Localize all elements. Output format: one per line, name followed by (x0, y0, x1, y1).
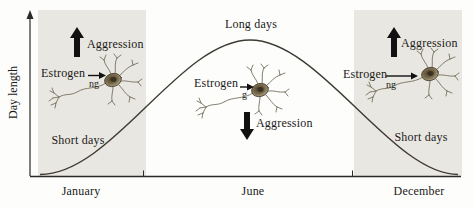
aggression-label-middle: Aggression (256, 117, 313, 130)
estrogen-label-left: Estrogen (41, 67, 85, 80)
short-days-label-right: Short days (381, 131, 461, 144)
estrogen-label-middle: Estrogen (194, 77, 238, 90)
day-length-curve (40, 40, 458, 175)
mechanism-label-left: ng (89, 78, 99, 89)
aggression-label-right: Aggression (401, 37, 458, 50)
y-axis-label: Day length (6, 62, 21, 124)
aggression-up-arrow-icon-left (70, 27, 84, 57)
aggression-down-arrow-icon-middle (240, 112, 254, 140)
figure-graphics (0, 0, 474, 208)
long-days-label: Long days (211, 18, 291, 31)
seasonal-aggression-figure: Day length Long days Aggression Aggressi… (0, 0, 474, 208)
aggression-label-left: Aggression (87, 38, 144, 51)
y-axis-arrowhead-icon (27, 10, 34, 19)
aggression-up-arrow-icon-right (387, 27, 401, 57)
x-tick-label-december: December (379, 185, 459, 198)
x-tick-label-june: June (213, 185, 293, 198)
mechanism-label-right: ng (386, 79, 396, 90)
y-axis (27, 10, 34, 176)
x-axis (30, 171, 461, 177)
mechanism-label-middle: g (242, 89, 247, 100)
estrogen-label-right: Estrogen (343, 68, 387, 81)
short-days-label-left: Short days (38, 134, 118, 147)
x-tick-label-january: January (41, 185, 121, 198)
